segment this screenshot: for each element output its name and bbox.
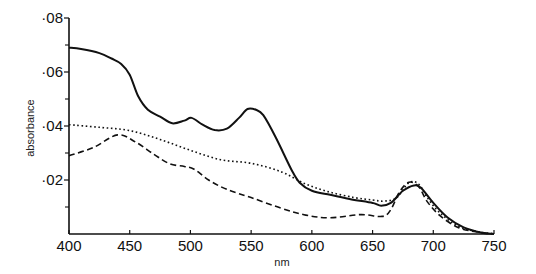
x-tick-label: 650 [360,237,385,254]
x-tick-label: 500 [178,237,203,254]
x-tick-label: 550 [239,237,264,254]
axes: 400450500550600650700750·02·04·06·08 [41,9,506,254]
absorbance-chart: 400450500550600650700750·02·04·06·08 nm … [0,0,536,274]
x-tick-label: 450 [117,237,142,254]
x-tick-label: 700 [421,237,446,254]
x-tick-label: 400 [56,237,81,254]
y-axis-title: absorbance [24,99,36,157]
y-tick-label: ·04 [41,117,63,134]
series-group [69,48,494,234]
y-tick-label: ·02 [41,171,63,188]
y-tick-label: ·08 [41,9,63,26]
x-tick-label: 600 [299,237,324,254]
y-tick-label: ·06 [41,63,63,80]
x-axis-title: nm [274,256,289,268]
x-tick-label: 750 [481,237,506,254]
